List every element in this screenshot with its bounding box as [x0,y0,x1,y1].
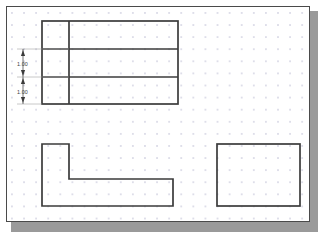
square[interactable] [217,144,300,206]
dimension-lower-label[interactable]: 1.00 [17,90,28,95]
arrowhead-down-icon [21,97,25,103]
square-outline[interactable] [217,144,300,206]
cad-screenshot: 1.00 1.00 [0,0,324,238]
cad-drawing-canvas[interactable]: 1.00 1.00 [6,6,310,222]
arrowhead-down-icon [21,70,25,76]
arrowhead-up-icon [21,50,25,56]
dimension-upper-label[interactable]: 1.00 [17,62,28,67]
l-shape[interactable] [42,144,173,206]
drawing-vector-layer [7,7,310,222]
divided-rectangle-outline[interactable] [42,21,178,104]
l-shape-outline[interactable] [42,144,173,206]
arrowhead-up-icon [21,78,25,84]
divided-rectangle[interactable] [42,21,178,104]
